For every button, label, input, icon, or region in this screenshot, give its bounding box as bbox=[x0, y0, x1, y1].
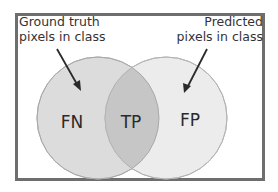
ground-truth-label-line2: pixels in class bbox=[19, 29, 105, 44]
predicted-label-line1: Predicted bbox=[177, 14, 263, 29]
predicted-label: Predicted pixels in class bbox=[177, 14, 263, 44]
fp-region-label: FP bbox=[180, 110, 200, 130]
tp-region-label: TP bbox=[121, 112, 142, 132]
ground-truth-label-line1: Ground truth bbox=[19, 14, 105, 29]
ground-truth-label: Ground truth pixels in class bbox=[19, 14, 105, 44]
fn-region-label: FN bbox=[61, 112, 84, 132]
predicted-label-line2: pixels in class bbox=[177, 29, 263, 44]
